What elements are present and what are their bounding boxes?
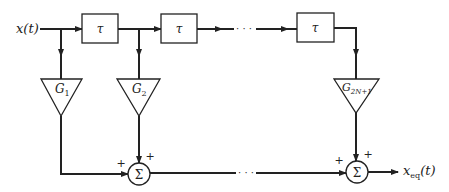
plus-sign-left-1: + — [116, 157, 125, 170]
gain-label-3: G — [342, 81, 351, 94]
input-label: x(t) — [16, 21, 39, 36]
ellipsis-top: · · · — [236, 23, 252, 34]
plus-sign-top-1: + — [145, 150, 154, 163]
gain-triangle-3: G2N+1 — [334, 79, 379, 113]
plus-sign-top-2: + — [363, 148, 372, 161]
summer-1: Σ + + — [116, 150, 154, 185]
gain-label-1: G — [55, 82, 65, 96]
sigma-symbol-2: Σ — [353, 166, 361, 180]
equalizer-block-diagram: x(t) τ τ · · · τ G1 — [0, 0, 449, 192]
delay-block-1: τ — [82, 14, 118, 43]
delay-label-1: τ — [97, 22, 104, 36]
delay-block-3: τ — [297, 13, 334, 42]
delay-label-2: τ — [176, 22, 183, 36]
gain-sub-1: 1 — [65, 89, 70, 98]
tap-line-3 — [334, 28, 356, 56]
gain-triangle-1: G1 — [41, 79, 82, 116]
output-label: xeq(t) — [403, 163, 436, 180]
gain-triangle-2: G2 — [117, 79, 160, 116]
delay-label-3: τ — [312, 21, 319, 35]
delay-block-2: τ — [161, 14, 197, 43]
gain-sub-3: 2N+1 — [350, 88, 372, 96]
summer-2: Σ + + — [334, 148, 372, 183]
gain-sub-2: 2 — [142, 89, 147, 98]
sigma-symbol-1: Σ — [135, 168, 143, 182]
ellipsis-bottom: · · · — [238, 167, 254, 178]
plus-sign-left-2: + — [334, 154, 343, 167]
gain-label-2: G — [132, 82, 142, 96]
